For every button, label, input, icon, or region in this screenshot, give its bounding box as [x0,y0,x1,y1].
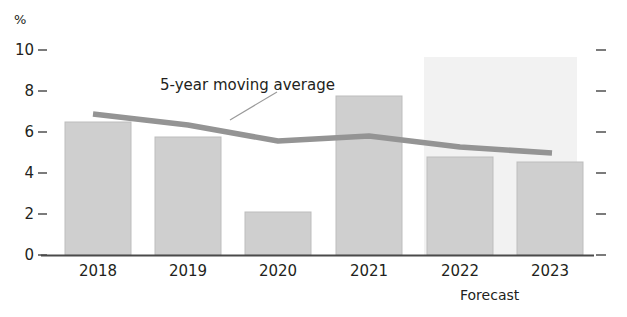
chart-container: % 10 8 6 4 2 0 [0,0,627,317]
forecast-label: Forecast [460,287,519,303]
annotation-leader-line [230,92,277,120]
bar-2020 [245,212,311,255]
y-axis-tick-marks-left [38,50,47,255]
bar-2023 [517,162,583,255]
x-tick-label-2018: 2018 [63,262,133,280]
x-tick-label-2023: 2023 [515,262,585,280]
x-tick-label-2022: 2022 [425,262,495,280]
x-tick-label-2021: 2021 [334,262,404,280]
moving-average-annotation: 5-year moving average [160,76,335,94]
bar-2019 [155,137,221,255]
y-axis-tick-marks-right [596,50,606,255]
bar-2021 [336,96,402,255]
x-tick-label-2020: 2020 [243,262,313,280]
x-tick-label-2019: 2019 [153,262,223,280]
bar-2018 [65,122,131,255]
bar-2022 [427,157,493,255]
